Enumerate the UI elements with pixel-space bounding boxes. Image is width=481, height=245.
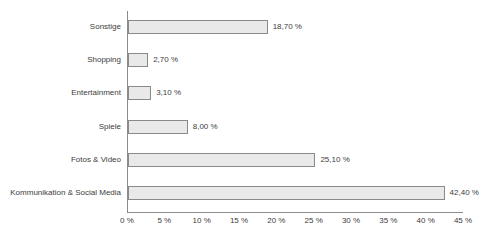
category-label: Spiele bbox=[0, 119, 121, 135]
bar-row: Fotos & Video25,10 % bbox=[0, 152, 481, 168]
category-label: Entertainment bbox=[0, 85, 121, 101]
bar-chart: Sonstige18,70 %Shopping2,70 %Entertainme… bbox=[0, 0, 481, 245]
bar-row: Spiele8,00 % bbox=[0, 119, 481, 135]
x-tick-label: 15 % bbox=[219, 216, 259, 225]
x-tick-label: 35 % bbox=[368, 216, 408, 225]
bar-value-label: 8,00 % bbox=[193, 119, 218, 135]
x-tick-label: 0 % bbox=[107, 216, 147, 225]
x-axis-line bbox=[127, 212, 463, 213]
bar bbox=[128, 153, 315, 167]
x-tick-label: 25 % bbox=[294, 216, 334, 225]
category-label: Fotos & Video bbox=[0, 152, 121, 168]
y-axis-line bbox=[127, 11, 128, 212]
x-tick-label: 45 % bbox=[443, 216, 481, 225]
bar bbox=[128, 120, 188, 134]
bar-row: Kommunikation & Social Media42,40 % bbox=[0, 185, 481, 201]
bar-value-label: 2,70 % bbox=[153, 52, 178, 68]
bar-row: Entertainment3,10 % bbox=[0, 85, 481, 101]
bar-value-label: 25,10 % bbox=[320, 152, 349, 168]
x-tick-label: 5 % bbox=[144, 216, 184, 225]
bar-value-label: 3,10 % bbox=[156, 85, 181, 101]
category-label: Sonstige bbox=[0, 19, 121, 35]
bar-row: Sonstige18,70 % bbox=[0, 19, 481, 35]
bar-value-label: 18,70 % bbox=[273, 19, 302, 35]
category-label: Shopping bbox=[0, 52, 121, 68]
bar bbox=[128, 20, 268, 34]
x-tick-label: 10 % bbox=[182, 216, 222, 225]
category-label: Kommunikation & Social Media bbox=[0, 185, 121, 201]
bar bbox=[128, 53, 148, 67]
bar bbox=[128, 186, 445, 200]
bar-row: Shopping2,70 % bbox=[0, 52, 481, 68]
x-tick-label: 20 % bbox=[256, 216, 296, 225]
x-tick-label: 40 % bbox=[406, 216, 446, 225]
bar-value-label: 42,40 % bbox=[450, 185, 479, 201]
bar bbox=[128, 86, 151, 100]
x-tick-label: 30 % bbox=[331, 216, 371, 225]
